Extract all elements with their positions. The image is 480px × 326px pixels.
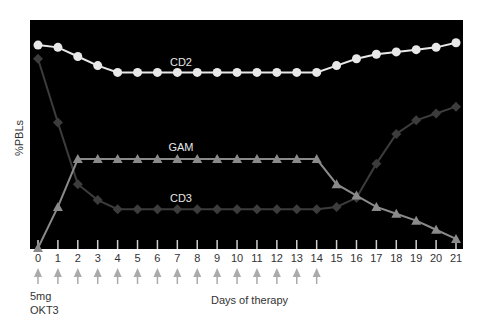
data-point-circle (173, 68, 182, 77)
data-point-circle (213, 68, 222, 77)
dose-arrow-icon (94, 268, 102, 284)
dose-arrow-icon (253, 268, 261, 284)
x-tick-label: 8 (194, 252, 200, 264)
x-tick-label: 0 (35, 252, 41, 264)
data-point-circle (113, 68, 122, 77)
x-tick-label: 21 (450, 252, 462, 264)
data-point-circle (193, 68, 202, 77)
x-tick-label: 10 (231, 252, 243, 264)
dose-arrow-icon (114, 268, 122, 284)
x-tick-label: 19 (410, 252, 422, 264)
dose-arrow-icon (313, 268, 321, 284)
dose-arrow-icon (153, 268, 161, 284)
data-point-circle (332, 61, 341, 70)
data-point-circle (392, 47, 401, 56)
data-point-circle (452, 38, 461, 47)
x-tick-label: 9 (214, 252, 220, 264)
data-point-circle (233, 68, 242, 77)
data-point-circle (352, 54, 361, 63)
dose-arrows (34, 268, 321, 284)
data-point-circle (252, 68, 261, 77)
x-tick-label: 7 (174, 252, 180, 264)
dose-arrow-icon (233, 268, 241, 284)
dose-arrow-icon (74, 268, 82, 284)
data-point-circle (53, 43, 62, 52)
data-point-circle (34, 41, 43, 50)
data-point-circle (372, 50, 381, 59)
dose-arrow-icon (173, 268, 181, 284)
x-tick-label: 6 (154, 252, 160, 264)
x-tick-labels: 0123456789101112131415161718192021 (35, 252, 462, 264)
x-tick-label: 15 (330, 252, 342, 264)
x-tick-label: 5 (134, 252, 140, 264)
x-tick-label: 13 (291, 252, 303, 264)
dose-arrow-icon (54, 268, 62, 284)
x-tick-label: 1 (55, 252, 61, 264)
data-point-circle (272, 68, 281, 77)
x-tick-label: 3 (95, 252, 101, 264)
data-point-circle (312, 68, 321, 77)
x-tick-label: 16 (350, 252, 362, 264)
dose-arrow-icon (273, 268, 281, 284)
dose-arrow-icon (34, 268, 42, 284)
series-label-cd2: CD2 (170, 56, 192, 68)
dose-label-line1: 5mg (30, 290, 51, 302)
chart: CD2GAMCD3 012345678910111213141516171819… (0, 0, 480, 326)
x-tick-label: 4 (115, 252, 121, 264)
x-tick-label: 18 (390, 252, 402, 264)
dose-arrow-icon (213, 268, 221, 284)
data-point-circle (73, 52, 82, 61)
x-tick-label: 2 (75, 252, 81, 264)
series-label-gam: GAM (168, 141, 193, 153)
data-point-circle (412, 45, 421, 54)
x-tick-label: 17 (370, 252, 382, 264)
data-point-circle (432, 43, 441, 52)
dose-arrow-icon (193, 268, 201, 284)
data-point-circle (292, 68, 301, 77)
data-point-circle (133, 68, 142, 77)
data-point-circle (153, 68, 162, 77)
x-tick-label: 12 (271, 252, 283, 264)
x-axis-label: Days of therapy (211, 294, 289, 306)
dose-arrow-icon (293, 268, 301, 284)
data-point-circle (93, 61, 102, 70)
series-label-cd3: CD3 (170, 192, 192, 204)
x-tick-label: 20 (430, 252, 442, 264)
dose-arrow-icon (134, 268, 142, 284)
x-tick-label: 14 (311, 252, 323, 264)
x-tick-label: 11 (251, 252, 262, 264)
y-axis-label: %PBLs (13, 119, 25, 156)
dose-label-line2: OKT3 (30, 304, 59, 316)
